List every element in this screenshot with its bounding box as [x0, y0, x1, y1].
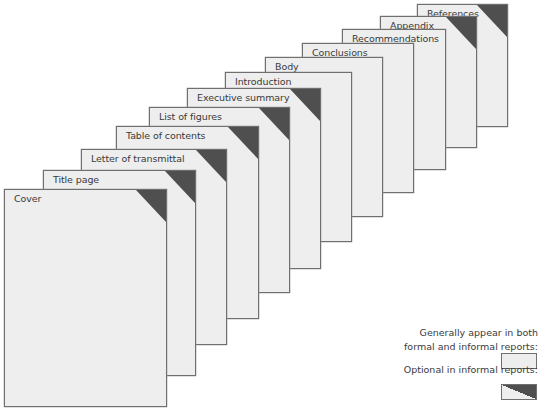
page-label: List of figures — [159, 111, 222, 122]
page-label: Table of contents — [126, 130, 205, 141]
optional-corner-icon — [165, 171, 195, 203]
page-label: Body — [275, 61, 299, 72]
optional-corner-icon — [259, 108, 289, 140]
report-parts-diagram: ReferencesAppendixRecommendationsConclus… — [0, 0, 544, 414]
legend-optional-text: Optional in informal reports: — [404, 363, 538, 377]
optional-corner-icon — [446, 17, 476, 49]
optional-corner-icon — [196, 150, 226, 182]
legend-optional-line: Optional in informal reports: — [404, 363, 538, 377]
legend-both-text: Generally appear in both formal and info… — [404, 326, 538, 354]
page-label: Letter of transmittal — [91, 153, 185, 164]
report-page-cover: Cover — [4, 189, 167, 407]
optional-corner-icon — [290, 89, 320, 121]
optional-corner-icon — [228, 127, 258, 159]
optional-corner-icon — [136, 190, 166, 222]
page-label: Introduction — [235, 76, 291, 87]
legend-both-line1: Generally appear in both — [404, 326, 538, 340]
page-label: Title page — [53, 174, 99, 185]
legend-both-line2: formal and informal reports: — [404, 340, 538, 354]
legend-optional-swatch — [501, 384, 537, 400]
optional-corner-icon — [477, 5, 507, 37]
page-label: Cover — [14, 193, 41, 204]
page-label: Executive summary — [197, 92, 289, 103]
